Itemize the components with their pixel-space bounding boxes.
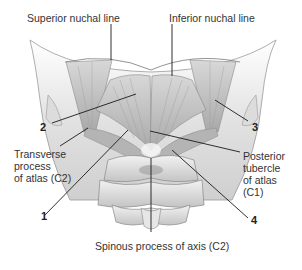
- callout-number-3: 3: [252, 121, 258, 133]
- label-superior-nuchal-line: Superior nuchal line: [27, 12, 120, 24]
- label-posterior-tubercle: Posterior tubercle of atlas (C1): [243, 150, 285, 198]
- label-spinous-process: Spinous process of axis (C2): [95, 240, 229, 252]
- callout-number-4: 4: [251, 214, 257, 226]
- callout-number-1: 1: [41, 210, 47, 222]
- diagram-canvas: Superior nuchal line Inferior nuchal lin…: [0, 0, 302, 270]
- label-inferior-nuchal-line: Inferior nuchal line: [169, 12, 255, 24]
- suboccipital-illustration: [0, 0, 302, 270]
- label-transverse-process: Transverse process of atlas (C2): [14, 148, 71, 184]
- callout-number-2: 2: [40, 121, 46, 133]
